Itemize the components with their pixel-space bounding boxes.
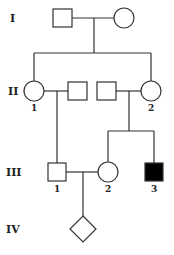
- generation-label-1: I: [10, 12, 15, 25]
- individual-III-2-female: [98, 162, 118, 182]
- individual-I-2-female: [114, 8, 134, 28]
- individual-label-II-2: 2: [148, 103, 154, 113]
- pedigree-chart: I II III IV 1 2 1 2 3: [0, 0, 174, 255]
- individual-III-1-male: [48, 163, 66, 181]
- individual-label-III-2: 2: [105, 184, 111, 194]
- individual-III-3-affected-male: [145, 163, 163, 181]
- pedigree-svg: I II III IV 1 2 1 2 3: [0, 0, 174, 255]
- individual-II-2-female: [141, 81, 161, 101]
- generation-label-2: II: [8, 85, 18, 98]
- individual-IV-1-unknown-sex: [70, 216, 96, 242]
- individual-label-II-1: 1: [31, 103, 37, 113]
- individual-II-1-female: [24, 81, 44, 101]
- individual-II-2-spouse-male: [97, 82, 116, 100]
- generation-label-3: III: [6, 166, 21, 179]
- individual-label-III-3: 3: [151, 184, 157, 194]
- generation-label-4: IV: [6, 223, 20, 236]
- individual-II-1-spouse-male: [68, 82, 87, 100]
- individual-I-1-male: [53, 9, 72, 27]
- individual-label-III-1: 1: [54, 184, 60, 194]
